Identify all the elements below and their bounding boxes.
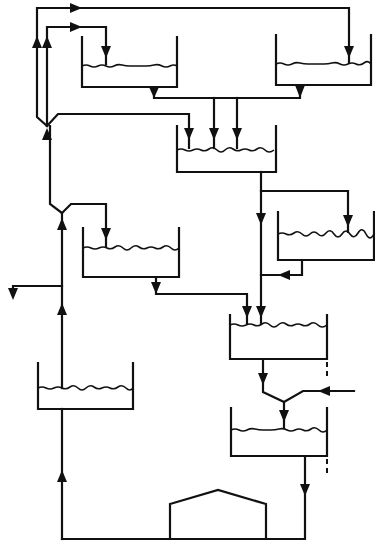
arrow-down-icon <box>8 288 18 300</box>
arrow-down-icon <box>149 87 159 98</box>
arrow-down-icon <box>242 306 252 318</box>
arrow-down-icon <box>256 213 266 225</box>
tank-top-right <box>276 35 371 85</box>
arrow-down-icon <box>295 85 305 98</box>
arrow-left-icon <box>318 386 330 396</box>
arrow-up-icon <box>57 303 67 315</box>
building <box>170 490 266 539</box>
arrow-down-icon <box>343 215 353 227</box>
arrow-down-icon <box>209 128 219 140</box>
arrow-right-icon <box>70 3 82 13</box>
tank-lower-right <box>230 315 327 380</box>
tank-right-mid <box>278 212 374 260</box>
tank-top-left <box>82 37 177 87</box>
arrow-right-icon <box>70 22 82 32</box>
tank-bottom-right <box>231 408 327 477</box>
arrow-down-icon <box>256 306 266 318</box>
arrow-down-icon <box>232 128 242 140</box>
arrow-down-icon <box>101 46 111 58</box>
arrow-up-icon <box>57 470 67 482</box>
tank-left-mid <box>83 228 179 277</box>
arrow-up-icon <box>32 36 42 48</box>
process-flow-diagram <box>0 0 375 549</box>
arrow-up-icon <box>57 218 67 230</box>
arrow-down-icon <box>258 373 268 385</box>
arrow-down-icon <box>101 228 111 240</box>
tank-bottom-left <box>38 363 133 409</box>
arrow-left-icon <box>278 270 290 280</box>
arrow-down-icon <box>344 46 354 58</box>
arrow-down-icon <box>300 484 310 496</box>
arrow-down-icon <box>184 128 194 140</box>
arrow-down-icon <box>279 410 289 422</box>
arrow-down-icon <box>151 282 161 294</box>
arrow-up-icon <box>42 36 52 48</box>
arrowheads <box>8 3 354 496</box>
